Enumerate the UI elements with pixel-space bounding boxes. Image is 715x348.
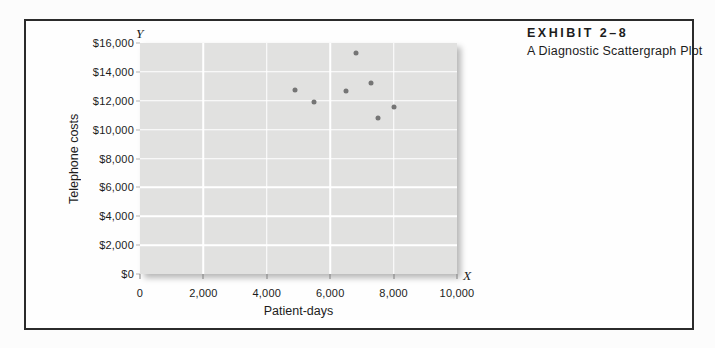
y-tick-mark: [136, 129, 140, 130]
y-tick-mark: [136, 100, 140, 101]
x-tick-mark: [330, 274, 331, 279]
y-tick-label: $0: [121, 268, 134, 280]
data-point: [353, 51, 358, 56]
x-tick-label: 4,000: [253, 287, 282, 299]
x-gridline: [266, 43, 268, 274]
data-point: [375, 116, 380, 121]
y-tick-label: $2,000: [99, 239, 134, 251]
plot-area: [140, 43, 457, 274]
y-tick-mark: [136, 216, 140, 217]
y-tick-label: $16,000: [93, 37, 134, 49]
x-gridline: [203, 43, 205, 274]
y-tick-mark: [136, 71, 140, 72]
y-gridline: [140, 216, 457, 218]
data-point: [369, 80, 374, 85]
y-gridline: [140, 129, 457, 131]
exhibit-label: EXHIBIT 2–8: [527, 26, 703, 42]
y-tick-label: $8,000: [99, 153, 134, 165]
figure-canvas: EXHIBIT 2–8 A Diagnostic Scattergraph Pl…: [0, 0, 715, 348]
x-tick-mark: [393, 274, 394, 279]
y-tick-label: $14,000: [93, 66, 134, 78]
y-axis-letter: Y: [136, 26, 144, 42]
exhibit-caption: A Diagnostic Scattergraph Plot: [527, 44, 703, 60]
x-axis-labels: 02,0004,0006,0008,00010,000: [140, 287, 457, 300]
y-tick-mark: [136, 245, 140, 246]
x-tick-mark: [457, 274, 458, 279]
x-gridline: [329, 43, 331, 274]
x-axis-title: Patient-days: [140, 304, 457, 318]
data-point: [344, 88, 349, 93]
y-tick-mark: [136, 187, 140, 188]
x-tick-mark: [266, 274, 267, 279]
y-tick-label: $6,000: [99, 181, 134, 193]
x-tick-label: 0: [137, 287, 143, 299]
x-tick-label: 6,000: [316, 287, 345, 299]
x-tick-label: 2,000: [189, 287, 218, 299]
x-gridline: [393, 43, 395, 274]
x-tick-label: 10,000: [440, 287, 475, 299]
y-axis-labels: $0$2,000$4,000$6,000$8,000$10,000$12,000…: [55, 43, 134, 274]
data-point: [312, 100, 317, 105]
x-tick-mark: [203, 274, 204, 279]
data-point: [293, 87, 298, 92]
y-gridline: [140, 71, 457, 73]
y-tick-label: $12,000: [93, 95, 134, 107]
data-point: [391, 105, 396, 110]
y-gridline: [140, 158, 457, 160]
exhibit-header: EXHIBIT 2–8 A Diagnostic Scattergraph Pl…: [527, 26, 703, 59]
y-gridline: [140, 187, 457, 189]
x-axis-letter: X: [463, 268, 471, 284]
y-tick-label: $4,000: [99, 210, 134, 222]
x-tick-label: 8,000: [379, 287, 408, 299]
y-tick-mark: [136, 43, 140, 44]
y-tick-mark: [136, 158, 140, 159]
y-tick-label: $10,000: [93, 124, 134, 136]
y-gridline: [140, 100, 457, 102]
x-tick-mark: [140, 274, 141, 279]
y-gridline: [140, 244, 457, 246]
